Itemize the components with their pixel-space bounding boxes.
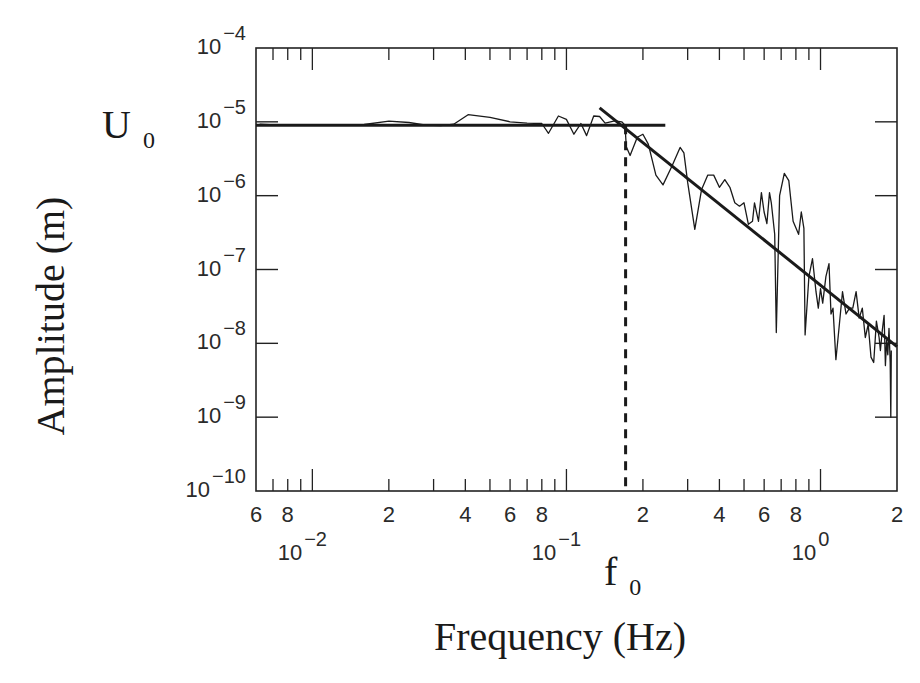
- y-tick-label: 10−7: [197, 244, 246, 281]
- x-minor-tick-label: 2: [637, 502, 649, 527]
- f0-main: f: [604, 549, 618, 594]
- series-high-frequency-decay-fit: [600, 108, 897, 347]
- x-decade-label: 100: [792, 528, 830, 565]
- f0-subscript: 0: [629, 574, 641, 600]
- x-minor-tick-label: 6: [250, 502, 262, 527]
- x-minor-tick-label: 6: [758, 502, 770, 527]
- x-axis-title: Frequency (Hz): [434, 614, 686, 659]
- y-tick-label: 10−10: [186, 465, 246, 502]
- x-decade-label: 10−2: [278, 528, 327, 565]
- y-tick-label: 10−5: [197, 96, 246, 133]
- y-tick-label: 10−4: [197, 22, 246, 59]
- u0-annotation: U 0: [102, 102, 155, 153]
- x-minor-tick-label: 8: [282, 502, 294, 527]
- u0-subscript: 0: [143, 127, 155, 153]
- x-minor-tick-label: 4: [459, 502, 471, 527]
- series-layer: [256, 108, 897, 491]
- x-minor-tick-label: 6: [504, 502, 516, 527]
- u0-main: U: [102, 102, 131, 147]
- x-minor-tick-label: 2: [891, 502, 903, 527]
- y-tick-label: 10−6: [197, 170, 246, 207]
- x-minor-tick-label: 4: [713, 502, 725, 527]
- x-minor-tick-label: 8: [536, 502, 548, 527]
- x-minor-tick-label: 8: [790, 502, 802, 527]
- f0-annotation: f 0: [604, 549, 641, 600]
- y-axis-title: Amplitude (m): [28, 197, 73, 436]
- y-tick-label: 10−8: [197, 317, 246, 354]
- amplitude-spectrum-chart: 10−410−510−610−710−810−910−10 6824682468…: [0, 0, 920, 683]
- y-tick-label: 10−9: [197, 391, 246, 428]
- x-decade-label: 10−1: [532, 528, 581, 565]
- x-minor-tick-label: 2: [383, 502, 395, 527]
